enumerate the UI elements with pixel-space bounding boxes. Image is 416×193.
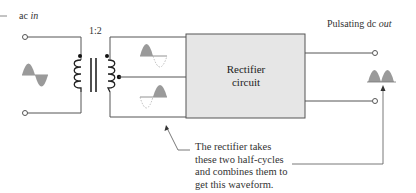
output-terminal-top (373, 51, 378, 56)
input-label-italic: in (30, 10, 38, 21)
input-terminal-bottom (23, 111, 28, 116)
rectifier-label: Rectifier circuit (186, 63, 306, 89)
output-label-prefix: Pulsating dc (327, 18, 379, 29)
secondary-polarity-dot (105, 54, 109, 58)
input-label: ac in (19, 11, 38, 21)
note-line-1: The rectifier takes (195, 141, 287, 154)
rectifier-label-line1: Rectifier (186, 63, 306, 76)
secondary-wire-bottom (110, 92, 187, 117)
callout-line-left (167, 128, 190, 150)
arrowhead-right-icon (381, 85, 386, 91)
note-line-2: these two half-cycles (195, 154, 287, 167)
note-line-3: and combines them to (195, 166, 287, 179)
primary-polarity-dot (78, 54, 82, 58)
rectifier-label-line2: circuit (186, 76, 306, 89)
note-line-4: get this waveform. (195, 179, 287, 192)
upper-half-cycle-waveform-icon (140, 44, 167, 67)
output-label-italic: out (379, 18, 392, 29)
primary-wire-bottom (28, 92, 82, 113)
ac-input-waveform-icon (22, 64, 48, 87)
primary-wire-top (28, 37, 82, 60)
secondary-coil-icon (108, 60, 115, 92)
pulsating-dc-waveform-icon (367, 70, 396, 82)
primary-coil-icon (74, 60, 81, 92)
callout-line-right (292, 89, 383, 164)
lower-half-cycle-waveform-icon (140, 85, 167, 108)
input-label-prefix: ac (19, 10, 30, 21)
output-terminal-bottom (373, 99, 378, 104)
transformer-ratio-label: 1:2 (89, 26, 102, 36)
callout-note: The rectifier takes these two half-cycle… (195, 141, 287, 191)
output-label: Pulsating dc out (327, 19, 391, 29)
input-terminal-top (23, 35, 28, 40)
